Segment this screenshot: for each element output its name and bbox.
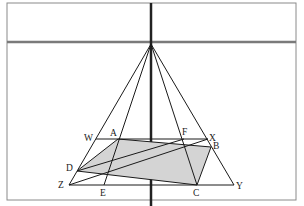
label-y: Y <box>236 181 243 191</box>
label-e: E <box>100 188 106 198</box>
diagram-canvas: W A F X B D Z E C Y <box>0 0 304 206</box>
label-z: Z <box>58 180 64 190</box>
label-f: F <box>182 127 187 137</box>
label-a: A <box>110 128 117 138</box>
label-w: W <box>84 133 93 143</box>
label-d: D <box>66 163 73 173</box>
label-c: C <box>193 188 199 198</box>
label-b: B <box>213 141 219 151</box>
